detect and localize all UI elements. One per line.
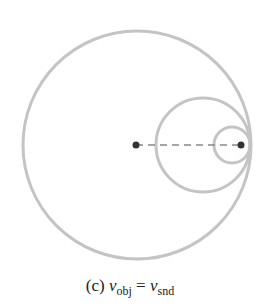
caption-rhs-sub: snd — [157, 284, 174, 298]
caption-equals: = — [136, 276, 146, 295]
caption-lhs-var: v — [109, 276, 117, 295]
figure-caption: (c) vobj = vsnd — [0, 276, 260, 299]
source-start-dot — [133, 142, 140, 149]
source-current-dot — [238, 142, 245, 149]
caption-lhs-sub: obj — [117, 284, 132, 298]
wavefront-diagram — [0, 0, 260, 308]
caption-label: (c) — [86, 276, 105, 295]
